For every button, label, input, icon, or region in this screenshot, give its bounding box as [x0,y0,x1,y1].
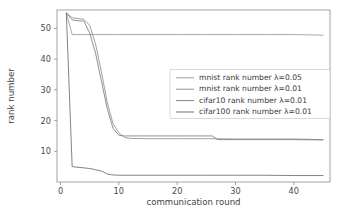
x-tick-label: 20 [172,186,182,196]
y-axis-ticks: 1020304050 [41,23,57,156]
y-tick-label: 20 [41,116,51,126]
y-tick-label: 40 [41,54,51,64]
line-chart: 010203040 1020304050 communication round… [0,0,344,215]
legend[interactable]: mnist rank number λ=0.05mnist rank numbe… [170,70,330,119]
y-tick-label: 50 [41,23,51,33]
y-axis-title: rank number [6,68,16,124]
y-tick-label: 10 [41,146,51,156]
y-tick-label: 30 [41,85,51,95]
x-tick-label: 30 [230,186,240,196]
x-tick-label: 0 [58,186,63,196]
legend-label-0: mnist rank number λ=0.05 [199,73,302,82]
x-tick-label: 10 [114,186,124,196]
legend-label-1: mnist rank number λ=0.01 [199,84,302,93]
legend-label-2: cifar10 rank number λ=0.01 [199,96,307,105]
x-axis-title: communication round [146,197,240,207]
figure-canvas: 010203040 1020304050 communication round… [0,0,344,215]
legend-label-3: cifar100 rank number λ=0.01 [199,107,312,116]
x-axis-ticks: 010203040 [58,182,299,196]
x-tick-label: 40 [289,186,299,196]
